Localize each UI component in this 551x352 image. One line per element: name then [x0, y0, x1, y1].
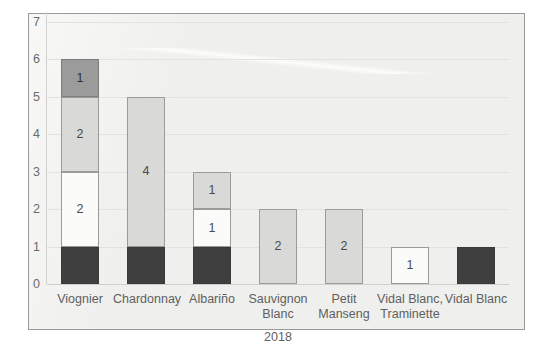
category-label-line: Traminette: [377, 307, 443, 322]
y-tick-label-5: 5: [33, 90, 40, 104]
screenshot-root: 76543210 221411221 ViognierChardonnayAlb…: [0, 0, 551, 352]
bar-segment[interactable]: 4: [127, 97, 165, 247]
bar-segment[interactable]: [127, 247, 165, 284]
bar-segment[interactable]: 2: [61, 172, 99, 247]
y-tick-label-7: 7: [33, 15, 40, 29]
category-label-line: Chardonnay: [113, 292, 179, 307]
bar-segment[interactable]: 1: [61, 59, 99, 96]
y-tick-label-3: 3: [33, 165, 40, 179]
bar-segment[interactable]: 1: [193, 172, 231, 209]
y-tick-label-0: 0: [33, 277, 40, 291]
bar-segment[interactable]: 2: [61, 97, 99, 172]
bar-group: 221411221: [47, 22, 509, 284]
bar-segment[interactable]: [457, 247, 495, 284]
category-label: Viognier: [47, 292, 113, 307]
bar-segment[interactable]: 1: [391, 247, 429, 284]
plot-area: 76543210 221411221 ViognierChardonnayAlb…: [47, 22, 509, 284]
category-label-line: Viognier: [47, 292, 113, 307]
bar-column[interactable]: [457, 22, 495, 284]
bar-column[interactable]: 4: [127, 22, 165, 284]
category-label-line: Manseng: [311, 307, 377, 322]
y-tick-label-4: 4: [33, 127, 40, 141]
bar-segment[interactable]: [61, 247, 99, 284]
category-label-line: Vidal Blanc,: [377, 292, 443, 307]
category-label: SauvignonBlanc: [245, 292, 311, 322]
category-label: Vidal Blanc: [443, 292, 509, 307]
category-label: PetitManseng: [311, 292, 377, 322]
bar-column[interactable]: 11: [193, 22, 231, 284]
bar-segment[interactable]: 2: [259, 209, 297, 284]
x-axis-title: 2018: [47, 330, 509, 344]
bar-column[interactable]: 221: [61, 22, 99, 284]
category-label-line: Vidal Blanc: [443, 292, 509, 307]
category-label: Chardonnay: [113, 292, 179, 307]
chart-frame: 76543210 221411221 ViognierChardonnayAlb…: [28, 13, 525, 330]
gridline-0: 0: [47, 284, 509, 285]
category-label-line: Albariño: [179, 292, 245, 307]
y-tick-label-2: 2: [33, 202, 40, 216]
category-label-line: Petit: [311, 292, 377, 307]
category-label-line: Sauvignon: [245, 292, 311, 307]
bar-column[interactable]: 1: [391, 22, 429, 284]
y-tick-label-6: 6: [33, 52, 40, 66]
bar-column[interactable]: 2: [325, 22, 363, 284]
bar-column[interactable]: 2: [259, 22, 297, 284]
y-tick-label-1: 1: [33, 240, 40, 254]
category-label-line: Blanc: [245, 307, 311, 322]
bar-segment[interactable]: [193, 247, 231, 284]
category-label: Vidal Blanc,Traminette: [377, 292, 443, 322]
bar-segment[interactable]: 2: [325, 209, 363, 284]
bar-segment[interactable]: 1: [193, 209, 231, 246]
category-label: Albariño: [179, 292, 245, 307]
